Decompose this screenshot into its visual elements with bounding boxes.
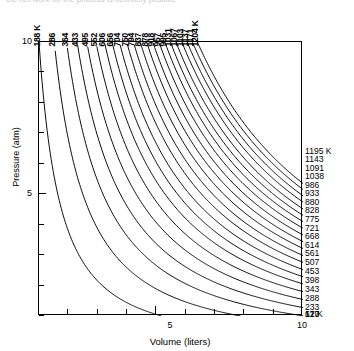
adiabat-curve	[120, 45, 303, 269]
adiabat-curve	[148, 45, 303, 242]
plot-area	[38, 41, 302, 315]
tick-mark	[39, 102, 44, 103]
top-temperature-label: 188 K	[33, 25, 42, 47]
tick-mark	[126, 309, 127, 314]
adiabat-curve	[197, 42, 303, 183]
y-tick-label-5: 5	[10, 188, 32, 198]
tick-mark	[97, 309, 98, 314]
tick-mark	[39, 254, 44, 255]
adiabat-curve	[39, 42, 161, 316]
adiabat-curve	[182, 43, 303, 202]
tick-mark	[39, 193, 46, 194]
y-tick-label-10: 10	[10, 36, 32, 46]
adiabat-curve	[97, 47, 303, 292]
clipped-body-text: the net work for the process is definite…	[6, 0, 336, 4]
tick-mark	[39, 285, 44, 286]
tick-mark	[273, 309, 274, 314]
tick-mark	[39, 315, 44, 316]
adiabat-curves	[39, 42, 303, 316]
top-temperature-label: 433	[71, 33, 80, 47]
top-temperature-label: 1204 K	[191, 20, 200, 46]
x-tick-label-10: 10	[291, 320, 313, 330]
x-tick-label-5: 5	[159, 320, 181, 330]
top-temperature-label: 364	[60, 33, 69, 47]
tick-mark	[155, 306, 156, 314]
y-axis-title: Pressure (atm)	[11, 117, 21, 197]
adiabat-curve	[171, 44, 303, 216]
adiabat-curve	[55, 51, 240, 316]
tick-mark	[39, 71, 44, 72]
tick-mark	[39, 163, 44, 164]
adiabat-curve	[78, 45, 303, 308]
tick-mark	[214, 309, 215, 314]
x-axis-title: Volume (liters)	[110, 336, 250, 347]
tick-mark	[67, 309, 68, 314]
adiabat-curve	[127, 44, 303, 262]
tick-mark	[243, 309, 244, 314]
tick-mark	[185, 309, 186, 314]
tick-mark	[39, 132, 44, 133]
right-temperature-label: 61 K	[305, 310, 323, 319]
tick-mark	[39, 224, 44, 225]
top-temperature-label: 286	[48, 33, 57, 47]
adiabats-pv-figure: the net work for the process is definite…	[0, 0, 354, 351]
